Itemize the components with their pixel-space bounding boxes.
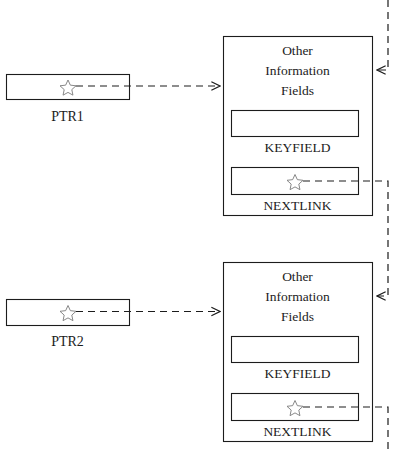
pointer-box-1 <box>7 75 130 100</box>
record-1-other-info-line-1: Other <box>223 44 372 58</box>
star-icon-nextlink-1 <box>287 175 303 190</box>
record-2-other-info-line-2: Information <box>223 290 372 304</box>
record-2-keyfield-label: KEYFIELD <box>223 367 372 381</box>
record-1-nextlink-label: NEXTLINK <box>223 199 372 213</box>
record-1-other-info-line-2: Information <box>223 64 372 78</box>
record-2-other-info-line-3: Fields <box>223 310 372 324</box>
star-icon-ptr2 <box>60 306 76 321</box>
pointer-box-2 <box>7 300 130 326</box>
record-2-nextlink-label: NEXTLINK <box>223 425 372 439</box>
diagram-canvas: Other Information Fields KEYFIELD NEXTLI… <box>0 0 401 452</box>
keyfield-box-1 <box>232 111 359 137</box>
keyfield-box-2 <box>232 337 359 363</box>
star-icon-ptr1 <box>60 80 76 95</box>
link-incoming-to-record1 <box>377 0 388 70</box>
record-1-keyfield-label: KEYFIELD <box>223 141 372 155</box>
record-1-other-info-line-3: Fields <box>223 84 372 98</box>
record-2-other-info-line-1: Other <box>223 270 372 284</box>
pointer-label-ptr1: PTR1 <box>6 110 129 124</box>
star-icon-nextlink-2 <box>287 401 303 416</box>
pointer-label-ptr2: PTR2 <box>6 335 129 349</box>
